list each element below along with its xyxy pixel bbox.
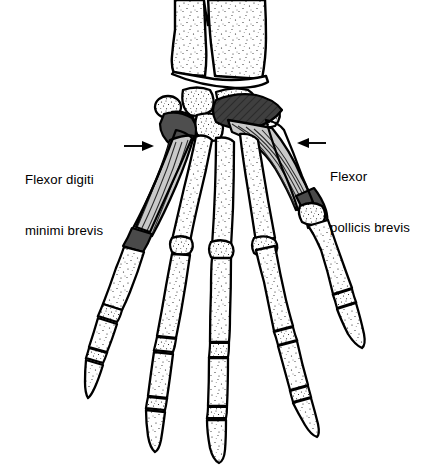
middle-dip-joint <box>207 407 227 418</box>
lunate-bone <box>182 88 213 116</box>
ring-distal-phalanx <box>146 410 165 452</box>
radius-bone <box>208 0 266 79</box>
leader-arrowhead-right <box>297 138 309 148</box>
digit-middle <box>207 258 231 463</box>
forearm-bones <box>172 0 268 88</box>
little-middle-phalanx <box>89 318 117 352</box>
label-flexor-digiti-minimi-brevis: Flexor digiti minimi brevis <box>25 137 103 273</box>
index-proximal-phalanx <box>256 246 293 331</box>
middle-middle-phalanx <box>208 358 228 406</box>
middle-distal-phalanx <box>207 420 226 463</box>
label-fpb-line1: Flexor <box>330 168 410 185</box>
ring-proximal-phalanx <box>157 254 190 338</box>
ring-dip-joint <box>146 397 167 410</box>
ring-pip-joint <box>154 337 176 352</box>
label-fdmb-line1: Flexor digiti <box>25 171 103 188</box>
thumb-distal-phalanx <box>337 303 365 348</box>
metacarpal-three <box>212 138 234 247</box>
middle-pip-joint <box>209 343 229 357</box>
label-fdmb-line2: minimi brevis <box>25 222 103 239</box>
index-distal-phalanx <box>293 398 319 437</box>
index-middle-phalanx <box>278 341 308 390</box>
anatomy-figure: Flexor digiti minimi brevis Flexor polli… <box>0 0 438 473</box>
little-proximal-phalanx <box>103 247 144 310</box>
ring-middle-phalanx <box>148 352 173 398</box>
digit-index <box>256 246 319 437</box>
label-fpb-line2: pollicis brevis <box>330 219 410 236</box>
metacarpal-head-three <box>209 240 234 260</box>
leader-arrowhead-left <box>142 141 154 151</box>
ulna-bone <box>172 0 207 76</box>
digit-ring <box>146 254 190 452</box>
little-distal-phalanx <box>85 360 103 398</box>
label-flexor-pollicis-brevis: Flexor pollicis brevis <box>330 134 410 270</box>
metacarpal-head-four <box>170 236 193 255</box>
middle-proximal-phalanx <box>210 258 231 342</box>
